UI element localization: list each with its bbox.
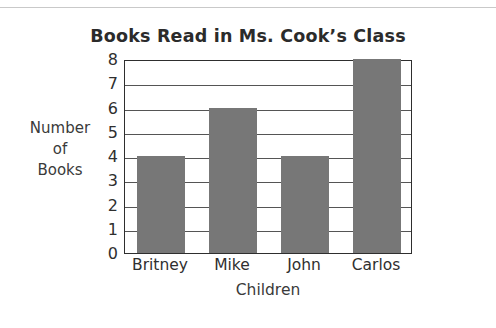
- x-axis-title: Children: [124, 281, 412, 299]
- y-axis-tick-label: 3: [96, 173, 118, 189]
- bars-layer: [125, 61, 411, 253]
- chart-title: Books Read in Ms. Cook’s Class: [0, 26, 496, 46]
- plot-area: [124, 60, 412, 254]
- y-axis-tick-label: 2: [96, 198, 118, 214]
- bar: [209, 108, 258, 254]
- x-axis-tick-labels: BritneyMikeJohnCarlos: [124, 256, 412, 278]
- y-axis-tick-label: 1: [96, 222, 118, 238]
- x-axis-tick-label: Carlos: [340, 256, 412, 274]
- y-axis-tick-label: 4: [96, 149, 118, 165]
- y-axis-title-line-3: Books: [14, 160, 106, 181]
- y-axis-tick-labels: 012345678: [96, 52, 118, 254]
- y-axis-tick-label: 6: [96, 101, 118, 117]
- y-axis-title: Number of Books: [14, 118, 106, 181]
- top-divider-rule: [0, 7, 496, 8]
- bar: [137, 156, 186, 253]
- bar: [353, 59, 402, 253]
- x-axis-tick-label: Mike: [196, 256, 268, 274]
- y-axis-tick-label: 7: [96, 76, 118, 92]
- y-axis-title-line-2: of: [14, 139, 106, 160]
- x-axis-tick-label: John: [268, 256, 340, 274]
- bar: [281, 156, 330, 253]
- y-axis-tick-label: 8: [96, 52, 118, 68]
- y-axis-tick-label: 0: [96, 246, 118, 262]
- y-axis-tick-label: 5: [96, 125, 118, 141]
- y-axis-title-line-1: Number: [14, 118, 106, 139]
- x-axis-tick-label: Britney: [124, 256, 196, 274]
- bar-chart-figure: Books Read in Ms. Cook’s Class Number of…: [0, 0, 496, 328]
